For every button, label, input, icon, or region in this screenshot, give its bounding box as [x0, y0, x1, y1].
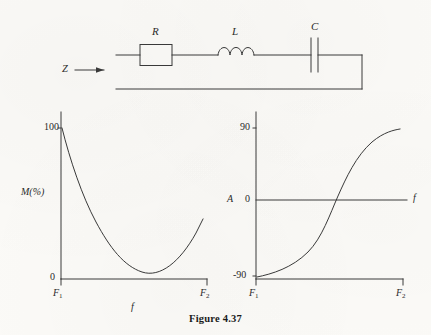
- right-ytick-0: 0: [245, 194, 250, 204]
- right-curve-phase: [257, 129, 400, 277]
- inductor-label: L: [232, 26, 238, 37]
- inductor-coils: [218, 48, 254, 56]
- right-ytick-minus-90: -90: [233, 270, 246, 280]
- right-xtick-f1-sub: 1: [255, 292, 259, 300]
- resistor-label: R: [152, 26, 159, 37]
- capacitor-label: C: [311, 21, 318, 32]
- right-x-axis-label: f: [413, 193, 416, 203]
- left-xtick-f1: F1: [53, 288, 63, 298]
- figure-page: R L C Z 100 0 M(%) F1 F2 f 90 0 -90 A f …: [0, 0, 431, 335]
- circuit-diagram: [75, 38, 362, 89]
- left-x-axis-label: f: [131, 302, 134, 312]
- left-y-axis-label-text: M(%): [21, 186, 44, 197]
- left-xtick-f1-sub: 1: [59, 292, 63, 300]
- magnitude-plot: [58, 112, 207, 285]
- impedance-label: Z: [62, 64, 68, 75]
- figure-artwork: [0, 0, 431, 335]
- left-ytick-0: 0: [50, 272, 55, 282]
- left-xtick-f2-sub: 2: [206, 292, 210, 300]
- impedance-arrow-head: [96, 67, 104, 73]
- right-xtick-f1: F1: [249, 288, 259, 298]
- phase-plot: [253, 112, 407, 285]
- right-y-axis-label: A: [227, 194, 233, 204]
- left-y-axis-label: M(%): [21, 187, 44, 197]
- left-ytick-100: 100: [44, 122, 59, 132]
- figure-caption: Figure 4.37: [0, 313, 431, 324]
- resistor-body: [140, 45, 172, 66]
- left-xtick-f2: F2: [200, 288, 210, 298]
- right-xtick-f2-sub: 2: [402, 292, 406, 300]
- right-xtick-f2: F2: [396, 288, 406, 298]
- left-curve-magnitude: [62, 128, 203, 273]
- right-ytick-90: 90: [240, 122, 250, 132]
